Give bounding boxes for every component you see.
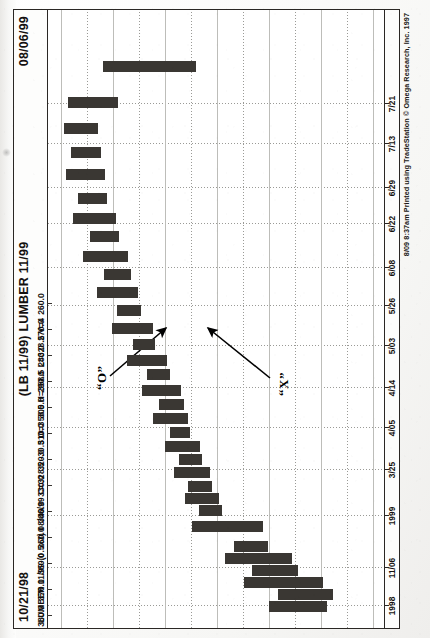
price-tick-mark xyxy=(47,459,52,460)
date-tick-mark xyxy=(385,567,389,568)
price-tick-mark xyxy=(47,329,52,330)
pf-column-o xyxy=(252,565,298,576)
date-tick-mark xyxy=(385,427,389,428)
date-tick-label: 7/21 xyxy=(387,96,397,112)
date-tick-mark xyxy=(385,223,389,224)
price-tick-mark xyxy=(47,511,52,512)
pf-box xyxy=(136,287,138,298)
x-annotation-label: “X” xyxy=(276,372,292,396)
page-title: (LB 11/99) LUMBER 11/99 xyxy=(17,66,31,571)
pf-box xyxy=(200,454,202,465)
pf-column-o xyxy=(133,339,155,350)
pf-box xyxy=(153,339,155,350)
price-tick-label: 380.0 xyxy=(36,605,46,627)
pf-column-x xyxy=(97,287,137,298)
price-tick-mark xyxy=(47,485,52,486)
pf-column-x xyxy=(174,467,209,478)
date-tick-label: 1998 xyxy=(387,597,397,616)
header-end-date: 08/06/99 xyxy=(17,10,31,66)
pf-column-x xyxy=(153,413,187,424)
pf-box xyxy=(165,355,167,366)
pf-box xyxy=(151,323,153,334)
price-tick-mark xyxy=(47,381,52,382)
pf-box xyxy=(188,427,190,438)
pf-box xyxy=(186,413,188,424)
chart-sheet: 10/21/98 (LB 11/99) LUMBER 11/99 08/06/9… xyxy=(13,9,417,629)
price-tick-mark xyxy=(47,563,52,564)
date-tick-label: 6/22 xyxy=(387,216,397,232)
pf-box xyxy=(198,441,200,452)
price-tick-label: 300.0 xyxy=(36,397,46,419)
pf-column-o xyxy=(234,541,268,552)
date-tick-mark xyxy=(385,515,389,516)
date-tick-label: 5/26 xyxy=(387,298,397,314)
pf-column-x xyxy=(112,323,152,334)
price-tick-label: 350.0 xyxy=(36,527,46,549)
pf-column-o xyxy=(68,97,117,108)
scan-smudge xyxy=(2,148,11,157)
price-tick-mark xyxy=(47,615,52,616)
price-tick-label: 280.0 xyxy=(36,345,46,367)
date-tick-mark xyxy=(385,143,389,144)
pf-box xyxy=(266,541,268,552)
date-tick-label: 5/03 xyxy=(387,338,397,354)
pf-box xyxy=(96,123,98,134)
pf-box xyxy=(194,61,196,72)
date-tick-mark xyxy=(385,267,389,268)
pf-box xyxy=(217,493,219,504)
pf-box xyxy=(99,147,101,158)
pf-box xyxy=(331,589,333,600)
pf-column-x xyxy=(127,355,166,366)
plot-area: “O”“X” xyxy=(47,9,385,629)
pf-column-x xyxy=(66,169,104,180)
plot-inner: “O”“X” xyxy=(48,10,384,628)
date-tick-label: 6/08 xyxy=(387,260,397,276)
pf-column-o xyxy=(90,231,119,242)
price-tick-label: 270.0 xyxy=(36,319,46,341)
date-tick-label: 3/25 xyxy=(387,462,397,478)
pf-column-o xyxy=(104,269,130,280)
date-tick-label: 1999 xyxy=(387,507,397,526)
date-tick-mark xyxy=(385,605,389,606)
pf-box xyxy=(208,467,210,478)
price-tick-label: 290.0 xyxy=(36,371,46,393)
price-tick-label: 340.0 xyxy=(36,501,46,523)
pf-box xyxy=(103,169,105,180)
pf-box xyxy=(179,385,181,396)
date-tick-label: 4/05 xyxy=(387,420,397,436)
pf-column-o xyxy=(71,147,100,158)
pf-column-o xyxy=(179,454,201,465)
pf-box xyxy=(168,369,170,380)
pf-column-x xyxy=(244,577,322,588)
price-tick-label: 320.0 xyxy=(36,449,46,471)
date-axis: 199811/0619993/254/054/145/035/266/086/2… xyxy=(385,9,400,629)
header-start-date: 10/21/98 xyxy=(17,572,31,628)
pf-box xyxy=(114,213,116,224)
pf-column-x xyxy=(165,441,199,452)
date-tick-mark xyxy=(385,305,389,306)
pf-column-x xyxy=(192,521,262,532)
pf-column-x xyxy=(142,385,181,396)
date-tick-mark xyxy=(385,103,389,104)
pf-column-o xyxy=(199,505,221,516)
o-annotation-label: “O” xyxy=(94,365,110,390)
pf-box xyxy=(139,305,141,316)
chart-header: 10/21/98 (LB 11/99) LUMBER 11/99 08/06/9… xyxy=(13,9,34,629)
pf-column-x xyxy=(73,213,116,224)
pf-column-x xyxy=(83,251,127,262)
pf-column-x xyxy=(269,601,326,612)
pf-box xyxy=(117,231,119,242)
pf-box xyxy=(105,193,107,204)
pf-column-o xyxy=(78,193,107,204)
pf-box xyxy=(126,251,128,262)
date-tick-mark xyxy=(385,345,389,346)
pf-column-x xyxy=(64,123,98,134)
price-tick-mark xyxy=(47,589,52,590)
pf-column-o xyxy=(117,305,140,316)
price-tick-mark xyxy=(47,407,52,408)
pf-column-x xyxy=(185,493,219,504)
price-tick-label: 310.0 xyxy=(36,423,46,445)
pf-column-o xyxy=(170,427,190,438)
price-tick-label: 360.0 xyxy=(36,553,46,575)
date-tick-label: 6/29 xyxy=(387,180,397,196)
